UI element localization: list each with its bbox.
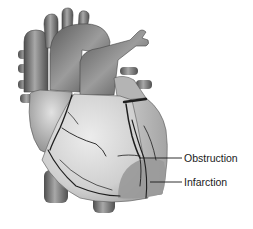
heart-diagram: Obstruction Infarction bbox=[0, 0, 253, 229]
heart-illustration bbox=[0, 0, 253, 229]
infarction-label: Infarction bbox=[184, 177, 227, 188]
superior-vena-cava bbox=[24, 30, 48, 92]
obstruction-label: Obstruction bbox=[184, 153, 238, 164]
